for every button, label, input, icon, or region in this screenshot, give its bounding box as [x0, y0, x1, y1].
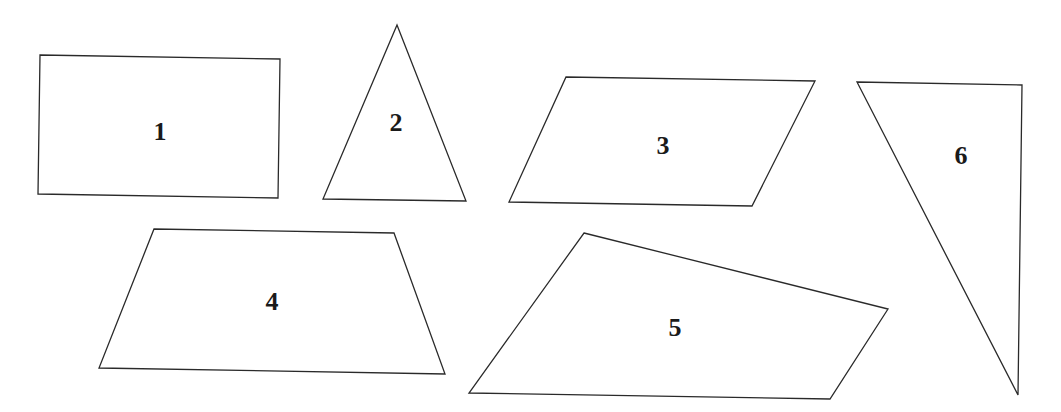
- shape-2-group: 2: [323, 25, 466, 201]
- shape-1-group: 1: [38, 55, 280, 198]
- shape-5-group: 5: [469, 233, 888, 399]
- shape-4-label: 4: [266, 287, 279, 316]
- shape-3-group: 3: [509, 77, 815, 206]
- diagram-canvas: 1 2 3 4 5 6: [0, 0, 1061, 412]
- shape-3-label: 3: [657, 131, 670, 160]
- shape-5-label: 5: [669, 313, 682, 342]
- shape-1-label: 1: [154, 117, 167, 146]
- shape-6-triangle: [857, 82, 1022, 395]
- shape-6-group: 6: [857, 82, 1022, 395]
- shape-6-label: 6: [955, 141, 968, 170]
- shapes-diagram: 1 2 3 4 5 6: [0, 0, 1061, 412]
- shape-4-group: 4: [99, 229, 445, 374]
- shape-2-label: 2: [390, 108, 403, 137]
